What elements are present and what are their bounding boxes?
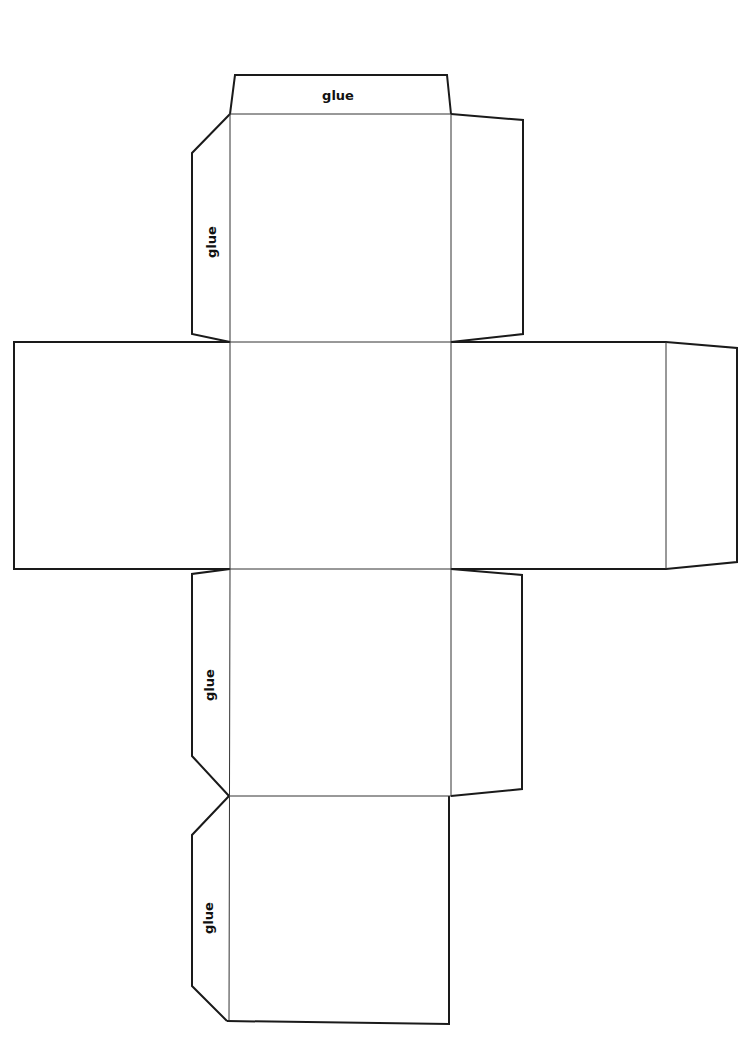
lower-right-flap bbox=[451, 569, 522, 796]
bottom-left-glue-label: glue bbox=[201, 902, 216, 934]
face-right bbox=[451, 342, 666, 569]
face-center bbox=[230, 342, 451, 569]
top-glue-label: glue bbox=[322, 88, 354, 103]
face-top bbox=[230, 114, 451, 342]
lower-left-glue-label: glue bbox=[202, 669, 217, 701]
face-lower bbox=[230, 569, 451, 796]
cube-net-diagram: glue glue glue glue bbox=[0, 0, 752, 1042]
face-left bbox=[14, 342, 230, 569]
face-bottom bbox=[229, 796, 449, 1022]
upper-left-glue-label: glue bbox=[204, 226, 219, 258]
upper-right-flap bbox=[451, 114, 523, 342]
